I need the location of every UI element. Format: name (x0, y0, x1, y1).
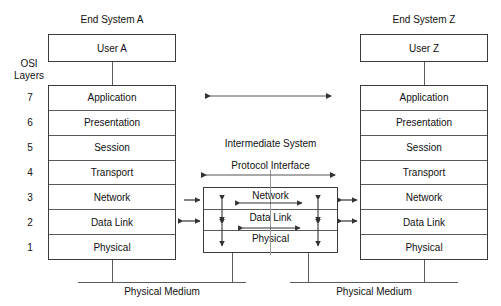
stack-a-layer-application: Application (49, 86, 175, 111)
stack-a-layer-physical: Physical (49, 235, 175, 259)
connector-user-z-to-stack (424, 62, 425, 85)
stack-a-layer-transport: Transport (49, 161, 175, 186)
stack-z-layer-physical: Physical (361, 235, 487, 259)
layer-number-4: 4 (22, 160, 38, 185)
stack-a-layer-network: Network (49, 185, 175, 210)
user-z-box: User Z (360, 34, 488, 62)
layer-number-2: 2 (22, 210, 38, 235)
layer-number-1: 1 (22, 235, 38, 260)
user-a-box: User A (48, 34, 176, 62)
connector-user-a-to-stack (112, 62, 113, 85)
physical-medium-line-left (78, 282, 246, 283)
layer-number-5: 5 (22, 135, 38, 160)
stack-z-layer-application: Application (361, 86, 487, 111)
title-intermediate-system: Intermediate System (203, 138, 338, 149)
osi-layers-caption: OSI Layers (8, 58, 50, 82)
end-system-z-stack: Application Presentation Session Transpo… (360, 85, 488, 260)
layer-number-6: 6 (22, 110, 38, 135)
physical-medium-label-right: Physical Medium (290, 286, 458, 297)
stack-z-layer-transport: Transport (361, 161, 487, 186)
stack-z-layer-presentation: Presentation (361, 111, 487, 136)
physical-medium-line-right (290, 282, 458, 283)
stack-a-layer-session: Session (49, 136, 175, 161)
medium-right-drop-from-stack-z (424, 260, 425, 282)
title-end-system-z: End System Z (360, 14, 488, 25)
end-system-a-stack: Application Presentation Session Transpo… (48, 85, 176, 260)
title-end-system-a: End System A (48, 14, 176, 25)
stack-a-layer-data-link: Data Link (49, 210, 175, 235)
stack-z-layer-session: Session (361, 136, 487, 161)
osi-caption-line2: Layers (8, 70, 50, 82)
layer-number-7: 7 (22, 85, 38, 110)
stack-z-layer-data-link: Data Link (361, 210, 487, 235)
stack-z-layer-network: Network (361, 185, 487, 210)
intermediate-center-divider (270, 170, 271, 255)
medium-left-drop-from-intermediate (232, 253, 233, 282)
medium-left-drop-from-stack-a (112, 260, 113, 282)
layer-number-3: 3 (22, 185, 38, 210)
osi-caption-line1: OSI (8, 58, 50, 70)
physical-medium-label-left: Physical Medium (78, 286, 246, 297)
osi-layers-diagram: End System A Intermediate System End Sys… (0, 0, 501, 306)
medium-right-drop-from-intermediate (308, 253, 309, 282)
stack-a-layer-presentation: Presentation (49, 111, 175, 136)
